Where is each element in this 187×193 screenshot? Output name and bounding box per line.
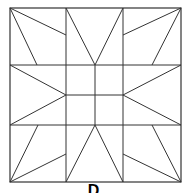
block-line [10,125,38,182]
figure-label: D [0,183,187,193]
block-line [152,8,181,65]
block-lines [10,8,181,182]
block-line [123,8,181,35]
block-line [95,125,123,182]
block-line [66,8,95,65]
block-line [95,8,123,65]
block-line [10,8,66,35]
quilt-block-diagram [0,0,187,193]
block-line [10,8,37,65]
block-line [10,95,66,125]
block-line [123,95,181,125]
block-line [123,65,181,95]
block-line [66,125,95,182]
block-line [152,125,181,182]
block-line [123,154,181,182]
block-line [10,65,66,95]
block-line [10,154,66,182]
